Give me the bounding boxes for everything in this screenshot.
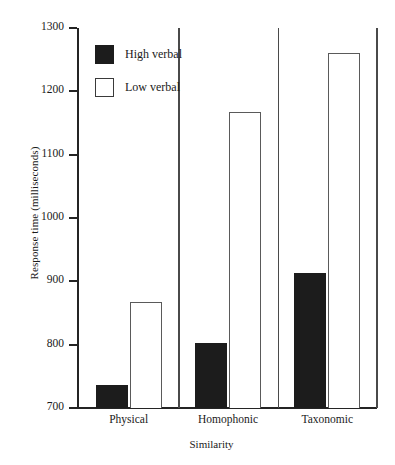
y-axis-tick-mark xyxy=(69,154,77,156)
y-axis-tick-label: 1100 xyxy=(4,148,64,160)
chart-legend: High verbal Low verbal xyxy=(95,44,182,110)
y-axis-tick-label: 900 xyxy=(4,274,64,286)
bar-homophonic-high-verbal xyxy=(195,343,227,408)
y-axis-tick-mark xyxy=(69,280,77,282)
bar-physical-low-verbal xyxy=(130,302,162,408)
bar-homophonic-low-verbal xyxy=(229,112,261,408)
y-axis-tick-mark xyxy=(69,27,77,29)
bar-taxonomic-low-verbal xyxy=(328,53,360,408)
y-axis-tick-label: 1200 xyxy=(4,84,64,96)
y-axis-tick-mark xyxy=(69,90,77,92)
bar-physical-high-verbal xyxy=(96,385,128,408)
legend-swatch-filled-black-square xyxy=(95,45,114,64)
legend-swatch-outlined-white-square xyxy=(95,78,114,97)
x-axis-title: Similarity xyxy=(0,438,395,450)
legend-label: High verbal xyxy=(125,47,182,62)
y-axis-tick-label: 1000 xyxy=(4,211,64,223)
group-separator xyxy=(278,28,280,408)
legend-label: Low verbal xyxy=(125,80,180,95)
bar-chart: Response time (milliseconds) 13001200110… xyxy=(0,0,395,465)
y-axis-tick-mark xyxy=(69,344,77,346)
group-separator xyxy=(376,28,378,408)
y-axis-tick-mark xyxy=(69,407,77,409)
bar-taxonomic-high-verbal xyxy=(294,273,326,408)
y-axis-tick-mark xyxy=(69,217,77,219)
x-axis-tick-label-taxonomic: Taxonomic xyxy=(267,413,387,425)
legend-item-low-verbal: Low verbal xyxy=(95,77,182,97)
y-axis-tick-label: 800 xyxy=(4,338,64,350)
y-axis-tick-label: 700 xyxy=(4,401,64,413)
y-axis-tick-label: 1300 xyxy=(4,21,64,33)
legend-item-high-verbal: High verbal xyxy=(95,44,182,64)
